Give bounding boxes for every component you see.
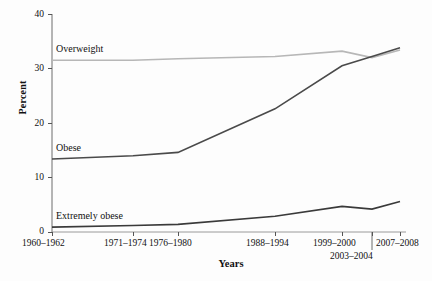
series-line-overweight	[52, 50, 400, 60]
x-tick-mark-2003-2004	[372, 232, 373, 236]
y-tick-label-0: 0	[18, 227, 44, 237]
x-tick-label-1960-1962: 1960–1962	[22, 239, 65, 249]
x-tick-label-1988-1994: 1988–1994	[246, 239, 289, 249]
x-tick-mark-1960-1962	[52, 232, 53, 236]
x-tick-label-2003-2004: 2003–2004	[330, 252, 373, 262]
y-tick-mark-10	[48, 177, 52, 178]
x-tick-mark-1988-1994	[275, 232, 276, 236]
x-tick-label-2007-2008: 2007–2008	[376, 239, 419, 249]
x-tick-mark-1999-2000	[342, 232, 343, 236]
y-tick-label-20: 20	[18, 119, 44, 129]
y-tick-mark-40	[48, 14, 52, 15]
x-tick-label-1976-1980: 1976–1980	[149, 239, 192, 249]
x-tick-mark-1971-1974	[133, 232, 134, 236]
y-axis-title: Percent	[17, 48, 28, 148]
series-label-obese: Obese	[56, 143, 81, 153]
series-label-overweight: Overweight	[56, 44, 103, 54]
y-tick-label-10: 10	[18, 173, 44, 183]
chart-figure: Percent 40 30 20 10 0 1960–1962 1971–197…	[0, 0, 432, 281]
x-tick-mark-2007-2008	[400, 232, 401, 236]
y-tick-mark-20	[48, 123, 52, 124]
y-tick-label-40: 40	[18, 10, 44, 20]
series-line-obese	[52, 48, 400, 159]
x-tick-label-1999-2000: 1999–2000	[313, 239, 356, 249]
x-axis-title: Years	[176, 258, 286, 269]
series-label-extremely-obese: Extremely obese	[56, 211, 123, 221]
y-tick-mark-30	[48, 68, 52, 69]
x-tick-label-1971-1974: 1971–1974	[104, 239, 147, 249]
x-tick-mark-1976-1980	[178, 232, 179, 236]
y-tick-label-30: 30	[18, 64, 44, 74]
